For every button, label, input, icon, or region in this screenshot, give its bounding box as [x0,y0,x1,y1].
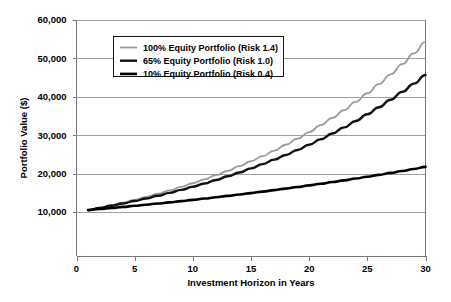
x-tick-label-15: 15 [246,263,257,274]
x-tick-label-0: 0 [74,263,79,274]
x-tick-label-20: 20 [304,263,315,274]
x-tick-label-25: 25 [362,263,373,274]
y-tick-label-40000: 40,000 [37,91,66,102]
portfolio-value-line-chart: 10,00020,00030,00040,00050,00060,000 051… [0,0,451,302]
y-tick-label-30000: 30,000 [37,130,66,141]
legend-label-0: 100% Equity Portfolio (Risk 1.4) [143,43,278,53]
y-tick-label-50000: 50,000 [37,53,66,64]
x-tick-label-5: 5 [132,263,138,274]
y-tick-label-60000: 60,000 [37,14,66,25]
y-tick-label-20000: 20,000 [37,168,66,179]
x-tick-label-30: 30 [420,263,431,274]
legend-label-1: 65% Equity Portfolio (Risk 1.0) [143,56,273,66]
legend-label-2: 10% Equity Portfolio (Risk 0.4) [143,69,273,79]
x-axis-title: Investment Horizon in Years [187,277,314,288]
y-tick-label-10000: 10,000 [37,206,66,217]
chart-container: 10,00020,00030,00040,00050,00060,000 051… [0,0,451,302]
y-axis-title: Portfolio Value ($) [18,98,29,179]
x-tick-label-10: 10 [188,263,199,274]
chart-legend: 100% Equity Portfolio (Risk 1.4)65% Equi… [114,37,284,80]
